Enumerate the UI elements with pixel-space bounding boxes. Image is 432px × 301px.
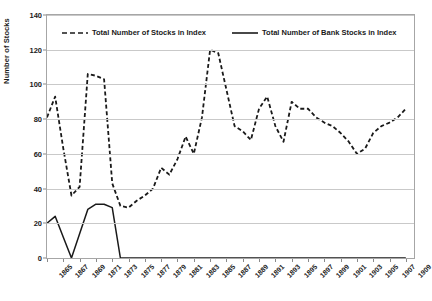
x-axis-tick-mark xyxy=(161,259,162,262)
x-axis-tick-mark xyxy=(373,259,374,262)
x-axis-tick-mark xyxy=(390,259,391,262)
x-axis-tick-label: 1909 xyxy=(416,263,432,279)
x-axis-tick-label: 1887 xyxy=(237,263,253,279)
x-axis-tick-mark xyxy=(112,259,113,262)
x-axis-tick-label: 1869 xyxy=(90,263,106,279)
x-axis-tick-mark xyxy=(47,259,48,262)
x-axis-tick-label: 1871 xyxy=(106,263,122,279)
x-axis-tick-label: 1899 xyxy=(335,263,351,279)
x-axis-tick-label: 1885 xyxy=(221,263,237,279)
x-axis-tick-mark xyxy=(80,259,81,262)
x-axis-tick-mark xyxy=(357,259,358,262)
x-axis-tick-label: 1883 xyxy=(204,263,220,279)
x-axis-tick-mark xyxy=(406,259,407,262)
x-axis-tick-label: 1905 xyxy=(384,263,400,279)
x-axis-tick-mark xyxy=(129,259,130,262)
x-axis-tick-mark xyxy=(259,259,260,262)
x-axis-tick-mark xyxy=(243,259,244,262)
x-axis-tick-mark xyxy=(63,259,64,262)
x-axis-tick-label: 1873 xyxy=(123,263,139,279)
x-axis-tick-mark xyxy=(292,259,293,262)
x-axis-tick-mark xyxy=(275,259,276,262)
x-axis-tick-label: 1881 xyxy=(188,263,204,279)
x-axis-tick-label: 1879 xyxy=(172,263,188,279)
x-axis-tick-mark xyxy=(341,259,342,262)
x-axis-tick-label: 1903 xyxy=(367,263,383,279)
x-axis-tick-mark xyxy=(226,259,227,262)
x-axis-tick-label: 1865 xyxy=(58,263,74,279)
x-axis-tick-label: 1875 xyxy=(139,263,155,279)
x-axis-tick-label: 1897 xyxy=(319,263,335,279)
x-axis-tick-label: 1877 xyxy=(155,263,171,279)
x-axis-tick-mark xyxy=(145,259,146,262)
x-axis-tick-mark xyxy=(96,259,97,262)
x-axis-tick-mark xyxy=(210,259,211,262)
x-axis-tick-label: 1889 xyxy=(253,263,269,279)
x-axis-tick-mark xyxy=(194,259,195,262)
x-axis-tick-label: 1901 xyxy=(351,263,367,279)
x-axis-tick-label: 1895 xyxy=(302,263,318,279)
x-axis-tick-mark xyxy=(177,259,178,262)
x-axis-tick-label: 1907 xyxy=(400,263,416,279)
x-axis-tick-label: 1893 xyxy=(286,263,302,279)
x-axis-tick-label: 1891 xyxy=(270,263,286,279)
x-axis-tick-mark xyxy=(308,259,309,262)
x-axis-tick-mark xyxy=(324,259,325,262)
x-axis-tick-label: 1867 xyxy=(74,263,90,279)
